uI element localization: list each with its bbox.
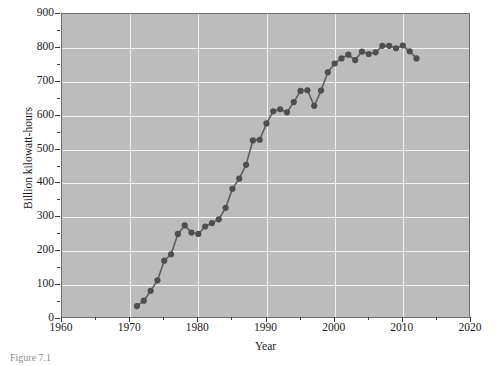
y-axis-minor-tick	[57, 267, 60, 268]
data-point	[366, 51, 372, 57]
data-point	[209, 220, 215, 226]
data-point	[400, 42, 406, 48]
data-point	[393, 45, 399, 51]
data-point	[263, 120, 269, 126]
y-axis-minor-tick	[57, 64, 60, 65]
y-axis-tick-label: 400	[37, 176, 54, 188]
data-point	[223, 205, 229, 211]
data-point	[338, 55, 344, 61]
y-axis-tick	[55, 216, 60, 217]
x-axis-minor-tick	[95, 317, 96, 320]
y-axis-tick-label: 300	[37, 210, 54, 222]
data-point	[195, 231, 201, 237]
data-point	[141, 298, 147, 304]
y-axis-tick-label: 100	[37, 278, 54, 290]
x-axis-tick-label: 2000	[322, 322, 345, 334]
data-point	[250, 137, 256, 143]
data-point	[182, 222, 188, 228]
data-point	[216, 216, 222, 222]
data-point	[277, 106, 283, 112]
series-line	[137, 46, 416, 307]
data-point	[175, 231, 181, 237]
y-axis-tick	[55, 81, 60, 82]
data-point	[202, 223, 208, 229]
data-point	[297, 88, 303, 94]
y-axis-minor-tick	[57, 30, 60, 31]
y-axis-tick	[55, 149, 60, 150]
y-axis-minor-tick	[57, 233, 60, 234]
data-point	[229, 186, 235, 192]
y-axis-tick-label: 500	[37, 143, 54, 155]
data-series-layer	[62, 14, 471, 319]
y-axis-minor-tick	[57, 199, 60, 200]
y-axis-tick	[55, 182, 60, 183]
x-axis-tick-label: 1960	[50, 322, 73, 334]
y-axis-tick-label: 200	[37, 244, 54, 256]
data-point	[311, 103, 317, 109]
data-point	[154, 277, 160, 283]
data-point	[372, 49, 378, 55]
data-point	[413, 55, 419, 61]
data-point	[188, 229, 194, 235]
x-axis-tick-label: 1980	[186, 322, 209, 334]
data-point	[168, 251, 174, 257]
y-axis-tick	[55, 13, 60, 14]
y-axis-tick-label: 600	[37, 109, 54, 121]
y-axis-tick-label: 900	[37, 7, 54, 19]
data-point	[359, 49, 365, 55]
figure-container: Billion kilowatt-hours 01002003004005006…	[0, 0, 496, 366]
data-point	[332, 60, 338, 66]
x-axis-minor-tick	[231, 317, 232, 320]
x-axis-tick-labels: 1960197019801990200020102020	[61, 322, 470, 338]
data-point	[407, 48, 413, 54]
y-axis-ticks	[61, 13, 62, 318]
figure-caption: Figure 7.1	[10, 352, 51, 363]
data-point	[352, 57, 358, 63]
y-axis-tick	[55, 318, 60, 319]
data-point	[345, 52, 351, 58]
data-point	[379, 43, 385, 49]
data-point	[161, 258, 167, 264]
y-axis-tick	[55, 115, 60, 116]
data-point	[257, 137, 263, 143]
x-axis-tick-label: 1970	[118, 322, 141, 334]
data-point	[236, 176, 242, 182]
y-axis-minor-tick	[57, 166, 60, 167]
data-point	[386, 43, 392, 49]
data-point	[304, 87, 310, 93]
y-axis-tick	[55, 284, 60, 285]
x-axis-tick-label: 1990	[254, 322, 277, 334]
y-axis-tick	[55, 250, 60, 251]
y-axis-tick-label: 800	[37, 41, 54, 53]
y-axis-tick-labels: 0100200300400500600700800900	[0, 13, 54, 318]
x-axis-minor-tick	[163, 317, 164, 320]
data-point	[148, 288, 154, 294]
plot-area	[61, 13, 470, 318]
data-point	[270, 108, 276, 114]
y-axis-minor-tick	[57, 132, 60, 133]
data-point	[318, 87, 324, 93]
x-axis-tick-label: 2020	[459, 322, 482, 334]
x-axis-minor-tick	[368, 317, 369, 320]
data-point	[284, 109, 290, 115]
x-axis-tick-label: 2010	[390, 322, 413, 334]
x-axis-minor-tick	[436, 317, 437, 320]
y-axis-minor-tick	[57, 98, 60, 99]
y-axis-tick	[55, 47, 60, 48]
data-point	[243, 162, 249, 168]
data-point	[325, 69, 331, 75]
y-axis-minor-tick	[57, 301, 60, 302]
data-point	[291, 99, 297, 105]
y-axis-tick-label: 700	[37, 75, 54, 87]
x-axis-minor-tick	[300, 317, 301, 320]
data-point	[134, 303, 140, 309]
x-axis-title: Year	[61, 340, 470, 352]
